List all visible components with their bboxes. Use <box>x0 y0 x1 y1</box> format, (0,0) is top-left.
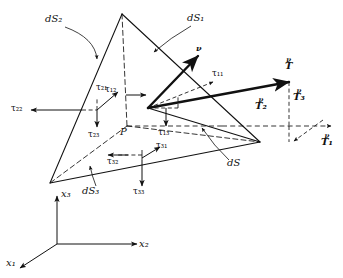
diagram-vector-layer <box>0 0 343 278</box>
figure-canvas: dS₂ dS₁ dS dS₃ P ν ν T ν T₂ ν T₃ ν T₁ τ₁… <box>0 0 343 278</box>
label-t32: τ₃₂ <box>107 157 119 166</box>
leader-dS2 <box>65 27 97 59</box>
leader-dS3 <box>90 166 96 186</box>
label-dS2: dS₂ <box>45 14 62 24</box>
traction-vectors <box>148 56 289 108</box>
axis-x1 <box>20 244 57 268</box>
label-traction-T2: ν T₂ <box>255 97 267 111</box>
leader-dS1 <box>154 26 191 52</box>
label-traction-T2-symbol: T₂ <box>255 100 267 111</box>
leader-dS <box>202 128 229 160</box>
stress-arrow-t11 <box>148 82 213 108</box>
label-dS3: dS₃ <box>82 186 99 196</box>
label-traction-T3-symbol: T₃ <box>293 91 305 102</box>
label-axis-x2: x₂ <box>139 239 149 249</box>
label-traction-T-symbol: T <box>285 60 292 71</box>
label-dS: dS <box>227 158 240 168</box>
stress-arrow-t21 <box>97 92 118 110</box>
label-t31: τ₃₁ <box>156 141 168 150</box>
label-t23: τ₂₃ <box>88 130 100 139</box>
label-axis-x1: x₁ <box>6 258 16 268</box>
label-t21: τ₂₁ <box>96 83 108 92</box>
label-traction-T: ν T <box>285 57 292 71</box>
leader-lines <box>65 26 229 186</box>
label-t11: τ₁₁ <box>212 69 224 78</box>
component-line-T1 <box>294 120 323 141</box>
label-traction-T1-symbol: T₁ <box>321 136 333 147</box>
label-t33: τ₃₃ <box>133 187 145 196</box>
label-t13: τ₁₃ <box>158 128 170 137</box>
stress-group-face2 <box>31 92 118 127</box>
coordinate-axes <box>20 196 137 268</box>
label-point-P: P <box>120 127 127 137</box>
label-traction-T1: ν T₁ <box>321 133 333 147</box>
label-normal-nu: ν <box>196 44 202 52</box>
label-t22: τ₂₂ <box>11 104 23 113</box>
label-traction-T3: ν T₃ <box>293 88 305 102</box>
label-dS1: dS₁ <box>187 13 204 23</box>
label-axis-x3: x₃ <box>61 189 71 199</box>
